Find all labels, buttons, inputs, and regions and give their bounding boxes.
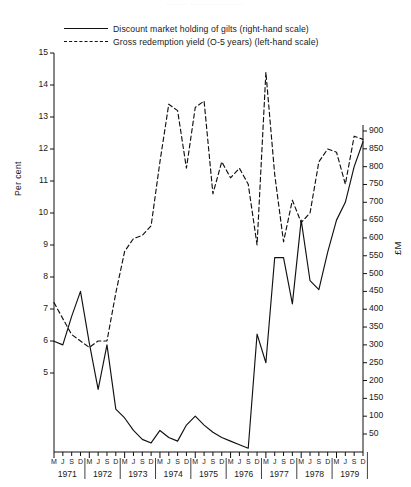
right-tick-label-900: 900 <box>369 125 399 135</box>
right-tick-label-550: 550 <box>369 250 399 260</box>
left-tick-label-8: 8 <box>26 271 48 281</box>
chart-figure: ······· ··········· ······ Discount mark… <box>0 0 411 487</box>
right-tick-label-250: 250 <box>369 357 399 367</box>
right-tick-label-400: 400 <box>369 303 399 313</box>
left-tick-label-13: 13 <box>26 111 48 121</box>
left-tick-label-6: 6 <box>26 335 48 345</box>
left-tick-label-9: 9 <box>26 239 48 249</box>
x-quarter-label-35: D <box>356 458 370 465</box>
right-tick-label-500: 500 <box>369 268 399 278</box>
series-line-discount-market-holding <box>54 142 363 449</box>
right-tick-label-600: 600 <box>369 232 399 242</box>
right-tick-label-700: 700 <box>369 196 399 206</box>
right-tick-label-350: 350 <box>369 321 399 331</box>
data-series-layer <box>54 72 363 448</box>
right-tick-label-100: 100 <box>369 410 399 420</box>
left-tick-label-12: 12 <box>26 143 48 153</box>
series-line-gross-redemption-yield <box>54 72 363 347</box>
left-tick-label-11: 11 <box>26 175 48 185</box>
left-tick-label-7: 7 <box>26 303 48 313</box>
right-tick-label-750: 750 <box>369 178 399 188</box>
right-tick-label-50: 50 <box>369 428 399 438</box>
left-tick-label-14: 14 <box>26 79 48 89</box>
right-tick-label-650: 650 <box>369 214 399 224</box>
axis-lines <box>50 53 367 479</box>
right-tick-label-150: 150 <box>369 392 399 402</box>
right-tick-label-800: 800 <box>369 161 399 171</box>
right-tick-label-450: 450 <box>369 285 399 295</box>
x-year-label-1979: 1979 <box>328 469 372 479</box>
left-tick-label-5: 5 <box>26 367 48 377</box>
left-tick-label-15: 15 <box>26 47 48 57</box>
right-tick-label-850: 850 <box>369 143 399 153</box>
left-tick-label-10: 10 <box>26 207 48 217</box>
right-tick-label-300: 300 <box>369 339 399 349</box>
plot-area <box>0 0 411 487</box>
right-tick-label-200: 200 <box>369 375 399 385</box>
